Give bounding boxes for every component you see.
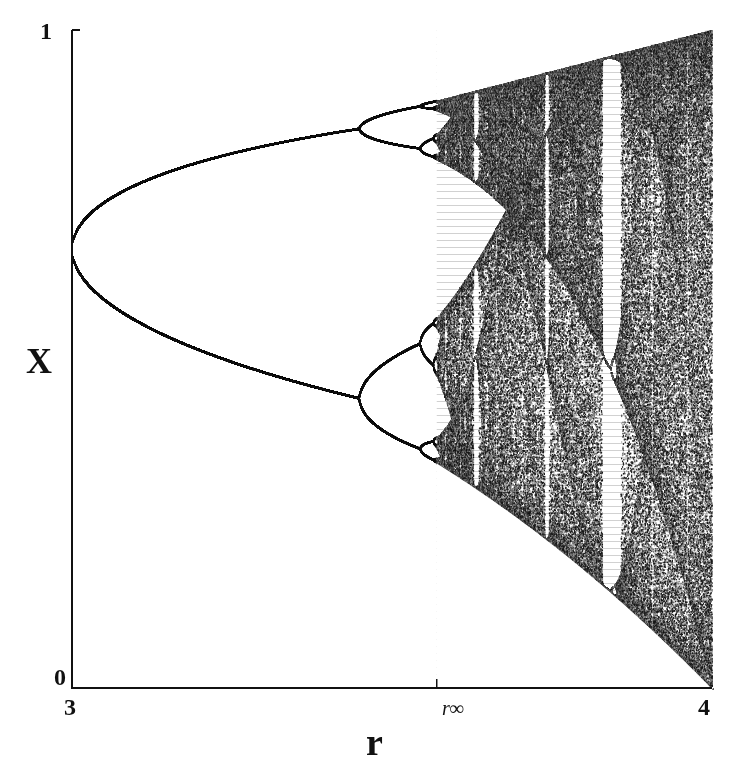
y-axis-label: X — [26, 340, 52, 382]
y-tick-0: 0 — [54, 664, 66, 691]
bifurcation-plot — [0, 0, 732, 764]
x-tick-4: 4 — [698, 694, 710, 721]
x-axis-label: r — [366, 720, 383, 764]
x-tick-r-infinity: r∞ — [442, 697, 464, 720]
x-tick-3: 3 — [64, 694, 76, 721]
y-tick-1: 1 — [40, 18, 52, 45]
